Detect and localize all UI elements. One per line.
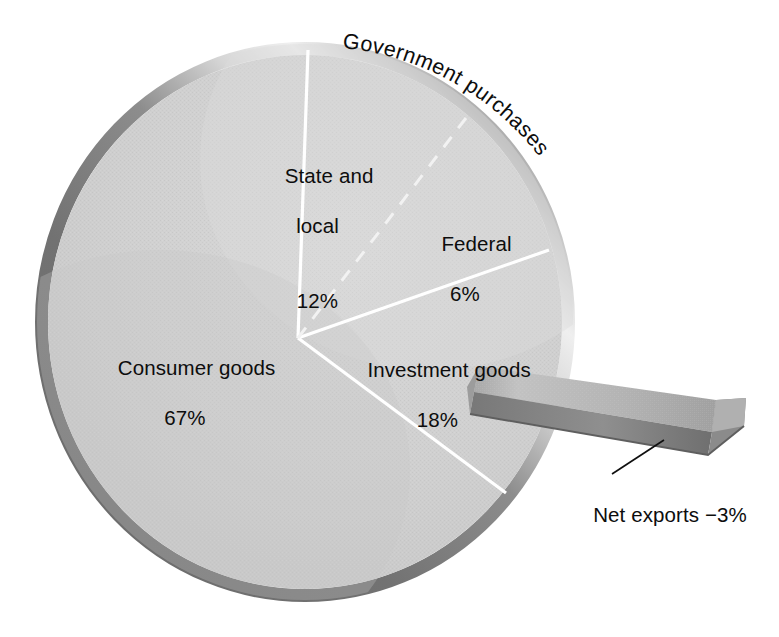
pie-chart: Government purchases Consumer goods 67% …: [0, 0, 779, 637]
slice-label-state-and-local: State and local 12%: [245, 138, 390, 363]
slice-label-investment-goods-value: 18%: [330, 407, 545, 432]
slice-label-state-and-local-line2: local: [245, 213, 390, 238]
slice-label-net-exports: Net exports −3%: [570, 477, 779, 552]
slice-label-state-and-local-value: 12%: [245, 288, 390, 313]
slice-label-consumer-goods-value: 67%: [60, 405, 310, 430]
slice-label-investment-goods-text: Investment goods: [367, 358, 530, 381]
slice-label-investment-goods: Investment goods 18%: [330, 332, 545, 482]
net-exports-leader-line: [612, 440, 664, 474]
slice-label-state-and-local-line1: State and: [285, 164, 374, 187]
slice-label-federal-value: 6%: [400, 281, 530, 306]
slice-label-federal-text: Federal: [441, 232, 511, 255]
slice-label-net-exports-text: Net exports −3%: [593, 503, 747, 526]
